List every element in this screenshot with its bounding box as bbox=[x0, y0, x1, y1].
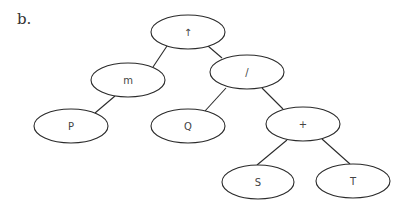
node-T: T bbox=[316, 164, 390, 198]
node-Q: Q bbox=[151, 109, 225, 143]
node-label: T bbox=[349, 176, 357, 187]
edge-div-plus bbox=[262, 88, 283, 109]
node-label: S bbox=[255, 177, 261, 188]
node-label: m bbox=[123, 75, 133, 86]
node-label: + bbox=[299, 119, 307, 130]
edge-plus-T bbox=[322, 139, 350, 164]
edge-root-div bbox=[208, 46, 222, 58]
edge-plus-S bbox=[257, 140, 287, 165]
node-m: m bbox=[91, 63, 165, 97]
edge-div-Q bbox=[205, 88, 226, 111]
node-P: P bbox=[34, 109, 108, 143]
node-label: Q bbox=[184, 121, 192, 132]
node-plus: + bbox=[266, 107, 340, 141]
node-S: S bbox=[222, 165, 294, 199]
tree-nodes: ↑m/PQ+ST bbox=[34, 15, 390, 199]
node-root: ↑ bbox=[151, 15, 225, 49]
edge-root-m bbox=[153, 46, 167, 67]
node-label: ↑ bbox=[184, 27, 192, 38]
tree-graphic: ↑m/PQ+ST bbox=[0, 0, 411, 209]
edge-m-P bbox=[95, 96, 115, 113]
node-div: / bbox=[210, 55, 284, 89]
expression-tree-diagram: b. ↑m/PQ+ST bbox=[0, 0, 411, 209]
node-label: P bbox=[68, 121, 74, 132]
